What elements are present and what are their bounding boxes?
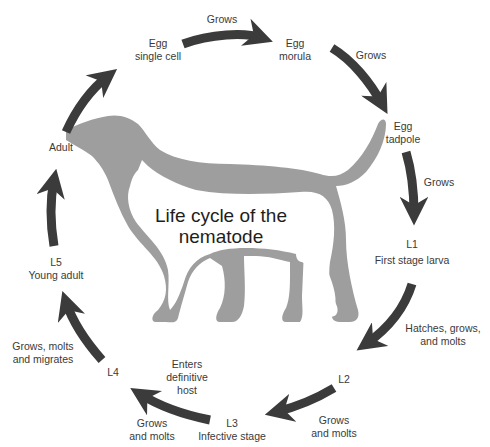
transition-grows-3: Grows <box>424 176 454 189</box>
stage-l5: L5 Young adult <box>28 256 83 282</box>
stage-adult: Adult <box>49 141 73 154</box>
stage-l2: L2 <box>338 373 350 386</box>
arrow-l5-to-adult <box>51 180 54 246</box>
transition-hatches: Hatches, grows, and molts <box>405 322 480 348</box>
stage-egg-single: Egg single cell <box>135 37 181 63</box>
transition-grows-molts-l3: Grows and molts <box>129 417 175 443</box>
transition-grows-molts-l2: Grows and molts <box>311 414 357 440</box>
arrow-tadpole-to-l1 <box>406 152 414 214</box>
transition-enters-host: Enters definitive host <box>166 358 207 397</box>
stage-egg-morula: Egg morula <box>279 37 311 63</box>
transition-grows-2: Grows <box>356 49 386 62</box>
arrow-egg-single-to-morula <box>183 35 262 44</box>
stage-l1: L1 First stage larva <box>375 238 450 267</box>
stage-egg-tadpole: Egg tadpole <box>386 120 420 146</box>
transition-grows-1: Grows <box>207 13 237 26</box>
transition-grows-molts-migrates: Grows, molts and migrates <box>12 340 73 366</box>
arrow-l2-to-l3 <box>276 388 334 412</box>
stage-l3: L3 Infective stage <box>198 417 266 443</box>
diagram-title: Life cycle of the nematode <box>155 205 287 247</box>
stage-l4: L4 <box>107 366 119 379</box>
